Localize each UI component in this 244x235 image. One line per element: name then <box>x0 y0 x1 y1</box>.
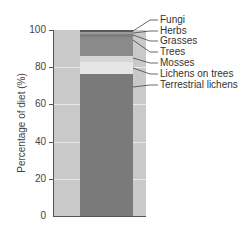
legend-grasses: Grasses <box>160 36 197 46</box>
legend-fungi: Fungi <box>160 15 185 25</box>
legend-terrestrial-lichens: Terrestrial lichens <box>160 80 238 90</box>
legend-lichens-on-trees: Lichens on trees <box>160 69 233 79</box>
legend-leader-lines <box>0 0 244 235</box>
legend-trees: Trees <box>160 47 185 57</box>
legend-mosses: Mosses <box>160 58 194 68</box>
